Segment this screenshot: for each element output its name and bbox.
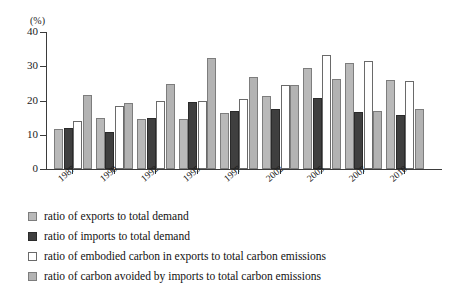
bar: [249, 77, 258, 169]
bar: [303, 68, 312, 169]
bar: [96, 118, 105, 169]
y-axis-tick-label: 10: [16, 129, 38, 140]
bar: [207, 58, 216, 169]
bar: [373, 111, 382, 169]
bar: [354, 112, 363, 169]
bar: [230, 111, 239, 169]
legend-item[interactable]: ratio of embodied carbon in exports to t…: [28, 246, 448, 266]
bar: [115, 106, 124, 169]
bar: [405, 81, 414, 169]
legend-item[interactable]: ratio of exports to total demand: [28, 206, 448, 226]
bar-chart-figure: (%) 403020100 19871990199219951997200220…: [0, 0, 462, 296]
y-axis-tick-label: 20: [16, 95, 38, 106]
legend-item-label: ratio of embodied carbon in exports to t…: [44, 250, 326, 262]
bar: [290, 85, 299, 169]
legend-swatch-exports-demand: [28, 212, 37, 221]
bar: [313, 98, 322, 169]
y-axis-tick: [40, 169, 47, 170]
bar: [54, 129, 63, 169]
bar: [415, 109, 424, 169]
bar: [147, 118, 156, 169]
legend-item[interactable]: ratio of imports to total demand: [28, 226, 448, 246]
legend-swatch-carbon-avoided-imports: [28, 272, 37, 281]
bar: [166, 84, 175, 169]
legend-swatch-embodied-carbon-exports: [28, 252, 37, 261]
bar: [364, 61, 373, 169]
bar: [386, 80, 395, 169]
bar: [322, 55, 331, 169]
bar: [345, 63, 354, 169]
bar: [156, 101, 165, 169]
chart-legend: ratio of exports to total demandratio of…: [28, 206, 448, 286]
legend-item-label: ratio of carbon avoided by imports to to…: [44, 270, 321, 282]
bar: [239, 99, 248, 169]
bar: [271, 109, 280, 169]
bar: [198, 101, 207, 169]
bar: [188, 102, 197, 169]
legend-item[interactable]: ratio of carbon avoided by imports to to…: [28, 266, 448, 286]
bar: [64, 128, 73, 169]
bar: [281, 85, 290, 169]
bar: [83, 95, 92, 169]
y-axis-tick-label: 30: [16, 60, 38, 71]
bar: [137, 119, 146, 169]
bar: [262, 96, 271, 169]
bar: [124, 103, 133, 169]
legend-item-label: ratio of imports to total demand: [44, 230, 190, 242]
bar: [73, 121, 82, 169]
legend-item-label: ratio of exports to total demand: [44, 210, 189, 222]
bar: [179, 119, 188, 169]
y-axis-tick-label: 40: [16, 26, 38, 37]
bar: [396, 115, 405, 169]
plot-area: [46, 32, 442, 169]
legend-swatch-imports-demand: [28, 232, 37, 241]
bar: [220, 113, 229, 169]
bar: [332, 79, 341, 169]
y-axis-tick-label: 0: [16, 163, 38, 174]
